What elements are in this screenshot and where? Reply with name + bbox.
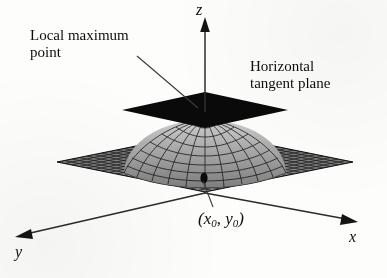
figure-canvas: Local maximum point Horizontal tangent p… [0, 0, 387, 278]
axis-label-y: y [15, 243, 22, 261]
local-maximum-label-line1: Local maximum [30, 27, 129, 44]
point-x-subscript: 0 [211, 217, 217, 229]
tangent-plane-label-line1: Horizontal [250, 58, 330, 75]
tangent-plane-label: Horizontal tangent plane [250, 58, 330, 92]
point-coordinate-label: (x0, y0) [198, 209, 244, 229]
point-y-subscript: 0 [233, 217, 239, 229]
point-comma: , [217, 209, 226, 228]
tangent-plane-label-line2: tangent plane [250, 75, 330, 92]
axis-y [15, 193, 205, 239]
local-maximum-label: Local maximum point [30, 27, 129, 61]
point-paren-close: ) [238, 209, 244, 228]
marked-point [200, 173, 207, 184]
point-y-symbol: y [225, 209, 233, 228]
axis-label-z: z [196, 1, 202, 19]
axis-label-x: x [349, 228, 356, 246]
local-maximum-label-line2: point [30, 44, 129, 61]
